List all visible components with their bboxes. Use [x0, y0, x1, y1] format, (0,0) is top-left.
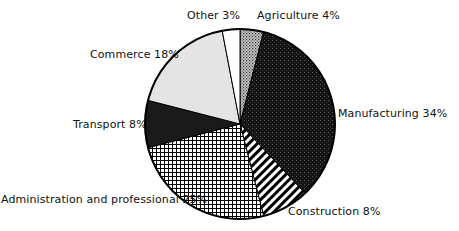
label-administration: Administration and professional 25% [1, 194, 207, 206]
label-commerce: Commerce 18% [90, 49, 179, 61]
label-agriculture: Agriculture 4% [257, 10, 340, 22]
label-manufacturing: Manufacturing 34% [338, 108, 447, 120]
label-transport: Transport 8% [73, 119, 147, 131]
label-other: Other 3% [187, 10, 240, 22]
label-construction: Construction 8% [288, 206, 381, 218]
